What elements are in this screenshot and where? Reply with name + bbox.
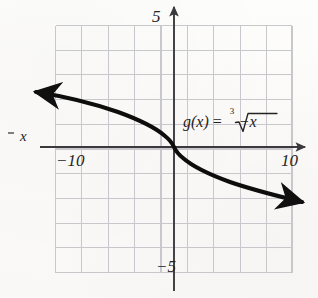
y-axis-tick-label-neg5: −5 [156, 258, 176, 275]
x-axis-name-label: x [20, 129, 27, 144]
graph-canvas [0, 0, 318, 298]
equation-equals-sign: = [213, 114, 222, 130]
radical-index: 3 [230, 107, 235, 116]
x-axis-tick-label-neg10: −10 [56, 152, 84, 169]
x-axis-tick-label-10: 10 [281, 152, 298, 169]
graph-figure: 5 −5 −10 10 x g(x) = 3 −x [0, 0, 318, 298]
function-equation-label: g(x) = 3 −x [183, 111, 278, 133]
radicand: −x [239, 114, 257, 130]
y-axis-tick-label-5: 5 [152, 8, 161, 25]
equation-function-name: g(x) [183, 114, 209, 130]
radical-expression: 3 −x [226, 111, 279, 133]
